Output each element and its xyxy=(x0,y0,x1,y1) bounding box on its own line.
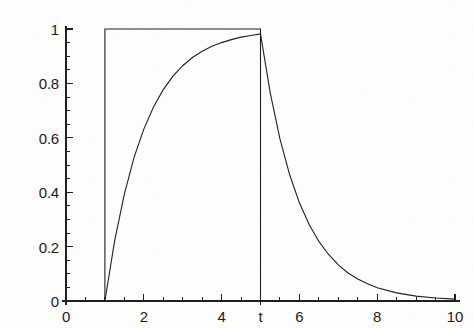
x-tick-label-8: 8 xyxy=(373,308,381,325)
chart-figure: 0246810 00.20.40.60.81 t xyxy=(0,0,474,328)
y-tick-label-0-6: 0.6 xyxy=(39,129,59,146)
series-input-pulse xyxy=(66,29,455,301)
x-tick-label-2: 2 xyxy=(140,308,148,325)
y-tick-label-1: 1 xyxy=(51,21,59,38)
y-tick-label-0-2: 0.2 xyxy=(39,238,59,255)
x-tick-label-4: 4 xyxy=(218,308,226,325)
x-tick-label-6: 6 xyxy=(295,308,303,325)
x-tick-label-10: 10 xyxy=(447,308,463,325)
t-axis-marker: t xyxy=(258,308,262,325)
y-tick-label-0-4: 0.4 xyxy=(39,184,59,201)
y-tick-label-0-8: 0.8 xyxy=(39,75,59,92)
plot-canvas xyxy=(0,0,474,328)
y-tick-label-0: 0 xyxy=(51,293,59,310)
y-axis-ticks xyxy=(66,29,73,301)
x-tick-label-0: 0 xyxy=(62,308,70,325)
data-series-layer xyxy=(66,29,455,301)
